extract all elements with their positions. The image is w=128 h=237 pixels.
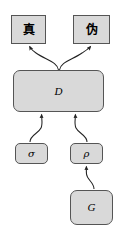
generator-node-label: G: [88, 202, 96, 213]
discriminator-node: D: [13, 70, 104, 112]
generator-node: G: [70, 190, 113, 225]
sigma-node: σ: [15, 143, 48, 164]
discriminator-node-label: D: [55, 86, 63, 97]
edge-rho-to-d: [75, 115, 87, 142]
true-node: 真: [11, 15, 46, 44]
fake-node-label: 伪: [86, 24, 98, 36]
rho-node: ρ: [70, 143, 103, 164]
rho-node-label: ρ: [84, 149, 90, 159]
sigma-node-label: σ: [28, 149, 35, 159]
true-node-label: 真: [23, 24, 35, 36]
edge-sigma-to-d: [30, 115, 42, 142]
fake-node: 伪: [73, 15, 110, 44]
edge-d-to-true: [30, 47, 59, 71]
edge-g-to-rho: [86, 167, 94, 189]
edge-d-to-fake: [60, 47, 91, 71]
diagram-canvas: 真 伪 D σ ρ G: [0, 0, 128, 237]
